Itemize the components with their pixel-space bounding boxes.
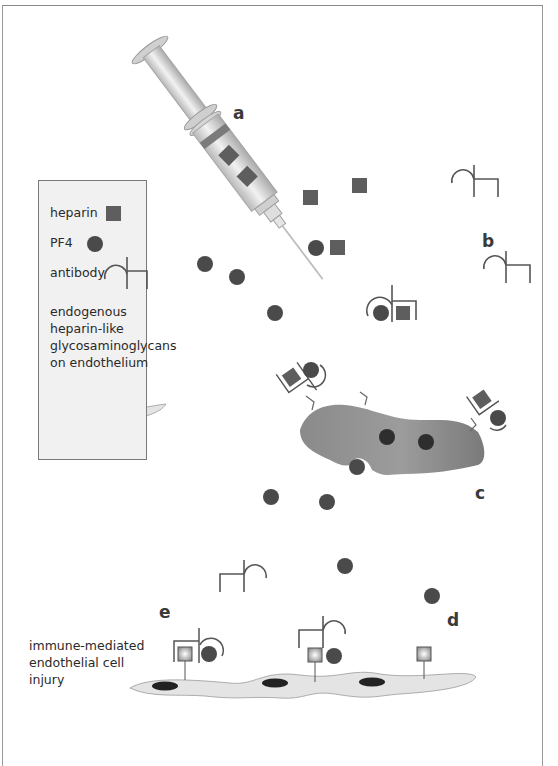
pf4-bound [326, 648, 342, 664]
heparin-molecule [330, 240, 345, 255]
heparin-molecule [352, 178, 367, 193]
pf4-molecule [424, 588, 440, 604]
granule [379, 429, 395, 445]
pf4-molecule [267, 305, 283, 321]
legend-endothelium-text: endogenous heparin-like glycosaminoglyca… [50, 303, 177, 371]
legend-label-heparin: heparin [50, 207, 98, 220]
pf4-molecule [337, 558, 353, 574]
caption-line: injury [29, 671, 144, 688]
panel-label-b: b [482, 233, 494, 250]
caption-immune-injury: immune-mediated endothelial cell injury [29, 637, 144, 688]
antibody [220, 560, 266, 592]
pf4-circle-icon [86, 235, 104, 253]
legend-line: on endothelium [50, 354, 177, 371]
heparin-molecule [303, 190, 318, 205]
pf4-molecule [263, 489, 279, 505]
activated-platelet [276, 361, 506, 475]
caption-line: immune-mediated [29, 637, 144, 654]
antibody [484, 251, 530, 283]
legend-label-pf4: PF4 [50, 237, 73, 250]
panel-label-d: d [447, 612, 459, 629]
antibody [452, 165, 498, 197]
panel-label-c: c [475, 485, 485, 502]
heparin-square-icon [106, 206, 122, 222]
legend-line: endogenous [50, 303, 177, 320]
pf4-molecule [308, 240, 324, 256]
immune-complex [367, 285, 416, 322]
pf4-molecule [229, 269, 245, 285]
legend-line: heparin-like [50, 320, 177, 337]
panel-label-e: e [159, 604, 171, 621]
legend-box: heparin PF4 antibody endogenous heparin-… [38, 180, 147, 460]
antibody [299, 616, 345, 648]
antibody-icon [103, 249, 149, 291]
pf4-released [349, 459, 365, 475]
caption-line: endothelial cell [29, 654, 144, 671]
syringe [129, 33, 340, 293]
granule [418, 434, 434, 450]
legend-label-antibody: antibody [50, 267, 105, 280]
legend-line: glycosaminoglycans [50, 337, 177, 354]
pf4-molecule [319, 494, 335, 510]
pf4-molecule [197, 256, 213, 272]
panel-label-a: a [233, 105, 244, 122]
